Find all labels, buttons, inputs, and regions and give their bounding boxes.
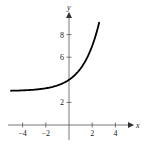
y-ticks: 268 bbox=[60, 31, 72, 108]
exponential-curve bbox=[11, 23, 99, 91]
x-tick-label: −2 bbox=[42, 129, 51, 138]
function-graph: −4−224 268 x y bbox=[0, 0, 146, 147]
x-tick-label: 2 bbox=[90, 129, 94, 138]
y-tick-label: 2 bbox=[60, 98, 64, 107]
y-tick-label: 6 bbox=[60, 53, 64, 62]
y-tick-label: 8 bbox=[60, 31, 64, 40]
x-tick-label: 4 bbox=[113, 129, 117, 138]
y-axis-label: y bbox=[66, 3, 71, 12]
x-axis-label: x bbox=[135, 121, 140, 130]
x-tick-label: −4 bbox=[18, 129, 27, 138]
